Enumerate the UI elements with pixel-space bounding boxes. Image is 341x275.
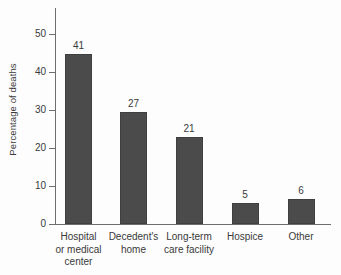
x-category-label-line: care facility [156,244,222,257]
y-tick-label-50: 50 [2,29,46,39]
bar-value-hospice: 5 [225,190,265,200]
x-category-label-other: Other [268,231,334,244]
plot-area: 41 27 21 5 6 [55,8,330,224]
bar-value-hospital-or-medical-center: 41 [59,41,99,51]
y-tick-label-0: 0 [2,219,46,229]
bar-value-long-term-care-facility: 21 [169,124,209,134]
x-category-label-line: Other [268,231,334,244]
bar-value-other: 6 [281,186,321,196]
bar-decedents-home [120,112,147,224]
bar-long-term-care-facility [176,137,203,224]
bar-hospital-or-medical-center [65,54,92,224]
y-tick-label-30: 30 [2,105,46,115]
bar-value-decedents-home: 27 [114,99,154,109]
x-category-label-line: center [46,256,112,269]
x-axis-line [55,224,331,225]
bar-chart: Percentage of deaths 0 10 20 30 40 50 41… [0,0,341,275]
y-tick-label-10: 10 [2,181,46,191]
bar-hospice [232,203,259,224]
y-tick-label-20: 20 [2,143,46,153]
y-tick-label-40: 40 [2,67,46,77]
bar-other [288,199,315,224]
